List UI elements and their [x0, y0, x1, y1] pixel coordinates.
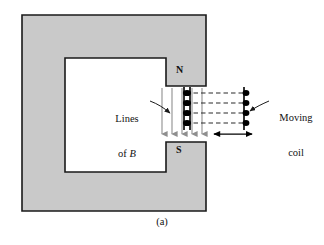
lines-of-b-line2: of B [104, 148, 150, 160]
coil-turn [243, 120, 250, 126]
physics-figure-moving-coil: Lines of B Moving coil N S (a) [0, 0, 324, 245]
lines-of-b-line2-prefix: of [118, 148, 129, 159]
coil-turn [243, 110, 250, 116]
coil-turn [183, 100, 191, 106]
coil-turn [183, 120, 191, 126]
lines-of-b-label: Lines of B [104, 89, 150, 183]
coil-turn [183, 90, 191, 96]
south-pole-label: S [176, 144, 182, 155]
magnetic-field-symbol: B [129, 148, 135, 159]
figure-caption: (a) [0, 216, 324, 228]
north-pole-label: N [176, 64, 183, 75]
coil-connection-lines [186, 93, 243, 123]
moving-coil-line1: Moving [270, 112, 322, 124]
lines-of-b-line1: Lines [104, 113, 150, 125]
right-coil-side [243, 87, 250, 130]
coil-turn [183, 110, 191, 116]
moving-coil-line2: coil [270, 147, 322, 159]
moving-coil-leader-arrow [250, 101, 269, 111]
moving-coil-label: Moving coil [270, 88, 322, 182]
lines-of-b-leader-arrow [150, 101, 170, 113]
coil-turn [243, 100, 250, 106]
left-coil-side [183, 87, 191, 130]
coil-turn [243, 90, 250, 96]
